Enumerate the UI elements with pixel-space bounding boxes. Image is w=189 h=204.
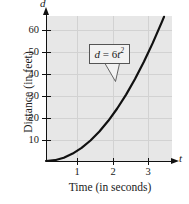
callout-equation-exponent: 2 [120,46,124,55]
graph-figure: d t 10 20 30 40 50 60 1 2 3 d = 6t2 Dist… [0,0,189,204]
equation-callout-box: d = 6t2 [89,44,131,64]
callout-pointer-tail [105,64,120,82]
callout-equation-operator: = [100,48,112,60]
y-axis-title: Distance (in feet) [22,12,34,172]
x-axis-title: Time (in seconds) [40,181,180,193]
